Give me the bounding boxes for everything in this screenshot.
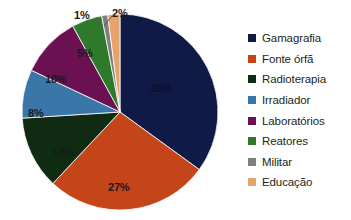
legend-item[interactable]: Radioterapia (248, 69, 351, 90)
legend-item[interactable]: Fonte órfã (248, 49, 351, 70)
legend-item-label: Reatores (262, 135, 308, 147)
legend-item[interactable]: Laboratórios (248, 110, 351, 131)
legend-item-label: Fonte órfã (262, 53, 313, 65)
legend-item[interactable]: Educação (248, 172, 351, 193)
legend-item[interactable]: Reatores (248, 131, 351, 152)
pie-chart-figure: 35%27%12%8%10%5%1%2% GamagrafiaFonte órf… (0, 0, 351, 220)
slice-value-label: 2% (112, 8, 128, 19)
legend-item-label: Irradiador (262, 94, 310, 106)
legend-swatch-icon (248, 75, 256, 83)
legend-swatch-icon (248, 96, 256, 104)
slice-value-label: 10% (45, 74, 66, 85)
legend-swatch-icon (248, 34, 256, 42)
legend-item-label: Radioterapia (262, 73, 326, 85)
legend-item-label: Gamagrafia (262, 32, 321, 44)
legend-swatch-icon (248, 117, 256, 125)
legend-item-label: Educação (262, 176, 312, 188)
slice-value-label: 1% (74, 10, 90, 21)
legend-swatch-icon (248, 137, 256, 145)
legend-swatch-icon (248, 55, 256, 63)
slice-value-label: 27% (108, 182, 129, 193)
legend-item-label: Militar (262, 156, 292, 168)
legend-item-label: Laboratórios (262, 115, 325, 127)
legend-item[interactable]: Militar (248, 152, 351, 173)
legend-swatch-icon (248, 158, 256, 166)
slice-value-label: 8% (28, 108, 44, 119)
legend-swatch-icon (248, 178, 256, 186)
slice-value-label: 12% (52, 147, 73, 158)
legend-item[interactable]: Irradiador (248, 90, 351, 111)
pie-plot-area: 35%27%12%8%10%5%1%2% (0, 0, 240, 220)
slice-value-label: 5% (77, 48, 93, 59)
legend-item[interactable]: Gamagrafia (248, 28, 351, 49)
slice-value-label: 35% (150, 83, 171, 94)
chart-legend: GamagrafiaFonte órfãRadioterapiaIrradiad… (248, 28, 351, 193)
